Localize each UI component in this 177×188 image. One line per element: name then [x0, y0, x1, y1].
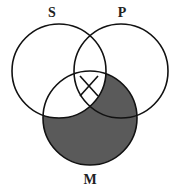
label-p: P: [118, 5, 127, 20]
shaded-region-m-not-s: [0, 0, 177, 188]
label-s: S: [48, 5, 56, 20]
venn-diagram: S P M: [0, 0, 177, 188]
label-m: M: [83, 172, 96, 187]
